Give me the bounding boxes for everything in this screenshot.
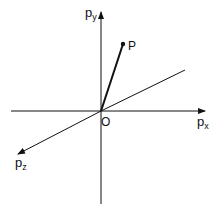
py-axis-label: py <box>85 5 97 22</box>
point-p-label: P <box>128 39 136 53</box>
pz-axis-back <box>101 70 185 111</box>
momentum-space-diagram: py P O px pz <box>0 0 219 215</box>
point-p-dot <box>121 42 125 46</box>
pz-axis <box>18 111 101 154</box>
origin-label: O <box>101 115 110 129</box>
px-axis-label: px <box>197 114 209 131</box>
pz-axis-label: pz <box>15 155 27 172</box>
vector-op <box>101 44 123 111</box>
